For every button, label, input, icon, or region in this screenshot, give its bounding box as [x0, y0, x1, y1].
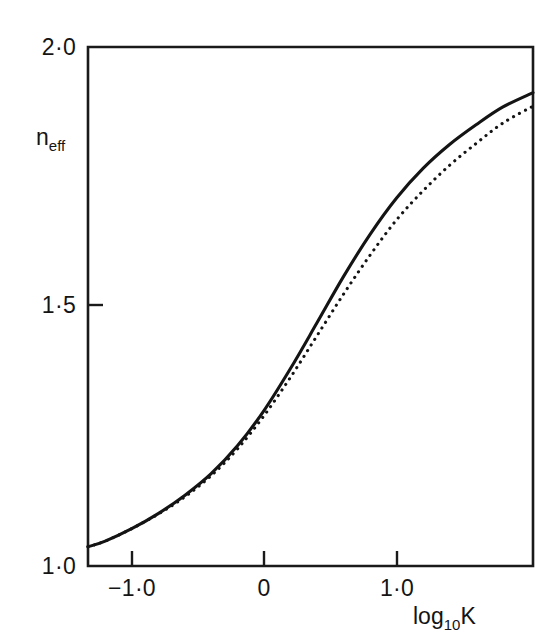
- plot-frame: [88, 47, 533, 566]
- y-tick-label-bottom: 1·0: [42, 553, 76, 579]
- x-tick-label-0: 0: [257, 575, 270, 601]
- x-axis-title-base: log: [413, 603, 444, 629]
- y-axis-title: neff: [36, 124, 66, 154]
- x-tick-label-1: 1·0: [380, 575, 414, 601]
- figure-container: 2·0 1·5 1·0 −1·0 0 1·0 neff log10K: [0, 0, 560, 633]
- data-series-solid: [88, 93, 533, 547]
- x-axis-title-tail: K: [460, 603, 476, 629]
- x-tick-label-minus-1: −1·0: [108, 575, 156, 601]
- chart-canvas: 2·0 1·5 1·0 −1·0 0 1·0 neff log10K: [0, 0, 560, 633]
- y-tick-label-top: 2·0: [42, 34, 76, 60]
- x-axis-title-sub: 10: [444, 616, 461, 633]
- y-axis-title-sub: eff: [49, 137, 66, 154]
- y-tick-label-mid: 1·5: [42, 292, 76, 318]
- x-axis-title: log10K: [413, 603, 476, 633]
- data-series-dotted: [88, 106, 533, 547]
- y-axis-title-base: n: [36, 124, 49, 150]
